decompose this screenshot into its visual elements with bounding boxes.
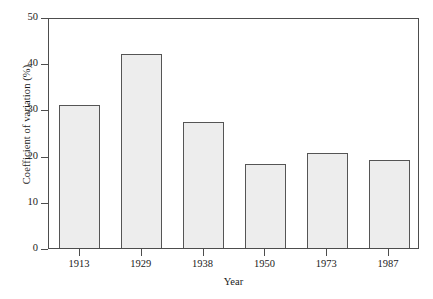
x-axis-title: Year xyxy=(48,276,419,287)
bar-chart-figure: Coefficient of variation (%) 01020304050… xyxy=(0,0,433,299)
bar-1929 xyxy=(121,54,162,248)
y-tick-mark xyxy=(41,110,48,111)
bar-1913 xyxy=(59,105,100,248)
y-tick-mark xyxy=(41,18,48,19)
y-tick-mark xyxy=(41,64,48,65)
y-tick-label-40: 40 xyxy=(14,57,38,68)
y-axis-title: Coefficient of variation (%) xyxy=(18,0,36,249)
y-tick-mark xyxy=(41,249,48,250)
plot-area xyxy=(48,18,419,249)
x-tick-label-1973: 1973 xyxy=(301,258,351,269)
y-tick-mark xyxy=(41,157,48,158)
x-tick-mark xyxy=(388,249,389,256)
x-tick-label-1938: 1938 xyxy=(178,258,228,269)
x-tick-mark xyxy=(264,249,265,256)
x-tick-mark xyxy=(79,249,80,256)
bar-1938 xyxy=(183,122,224,248)
x-tick-mark xyxy=(141,249,142,256)
y-tick-label-30: 30 xyxy=(14,103,38,114)
y-tick-label-50: 50 xyxy=(14,11,38,22)
y-tick-label-20: 20 xyxy=(14,150,38,161)
y-tick-label-0: 0 xyxy=(14,242,38,253)
x-tick-label-1929: 1929 xyxy=(116,258,166,269)
x-tick-label-1987: 1987 xyxy=(363,258,413,269)
bar-1987 xyxy=(369,160,410,248)
bar-1973 xyxy=(307,153,348,248)
y-tick-label-10: 10 xyxy=(14,196,38,207)
x-tick-mark xyxy=(326,249,327,256)
bar-1950 xyxy=(245,164,286,248)
x-tick-mark xyxy=(203,249,204,256)
bars-container xyxy=(49,19,418,248)
x-tick-label-1913: 1913 xyxy=(54,258,104,269)
y-tick-mark xyxy=(41,203,48,204)
x-tick-label-1950: 1950 xyxy=(239,258,289,269)
